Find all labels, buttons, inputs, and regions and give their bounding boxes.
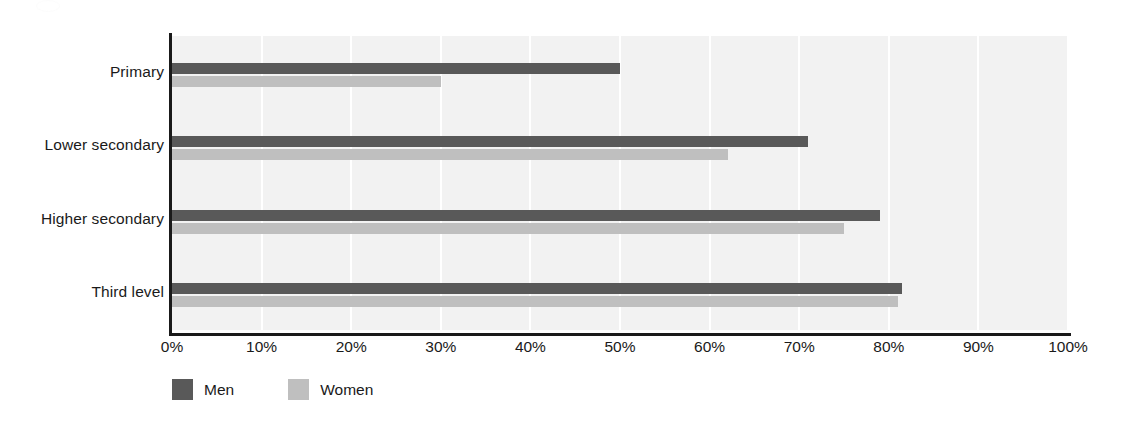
legend-item-women[interactable]: Women	[288, 379, 373, 400]
category-label-third-level: Third level	[0, 283, 164, 301]
bar-men-higher-secondary	[172, 210, 880, 221]
x-tick-label-90%: 90%	[963, 338, 994, 356]
bar-group	[172, 283, 1068, 307]
x-tick-label-20%: 20%	[336, 338, 367, 356]
chart-legend: MenWomen	[172, 379, 373, 400]
x-axis-line	[169, 333, 1071, 336]
x-tick-label-40%: 40%	[515, 338, 546, 356]
legend-swatch-men	[172, 379, 193, 400]
category-label-primary: Primary	[0, 63, 164, 81]
category-label-higher-secondary: Higher secondary	[0, 210, 164, 228]
bar-women-third-level	[172, 296, 898, 307]
legend-label-men: Men	[204, 381, 234, 399]
bar-women-primary	[172, 76, 441, 87]
bar-women-higher-secondary	[172, 223, 844, 234]
x-axis-tick-labels: 0%10%20%30%40%50%60%70%80%90%100%	[0, 338, 1123, 362]
bar-group	[172, 210, 1068, 234]
x-tick-label-100%: 100%	[1048, 338, 1088, 356]
cropped-artifact	[36, 0, 60, 12]
x-tick-label-30%: 30%	[425, 338, 456, 356]
bar-chart: PrimaryLower secondaryHigher secondaryTh…	[0, 0, 1123, 429]
x-tick-label-50%: 50%	[604, 338, 635, 356]
category-label-lower-secondary: Lower secondary	[0, 136, 164, 154]
category-axis-labels: PrimaryLower secondaryHigher secondaryTh…	[0, 36, 164, 330]
plot-area	[172, 36, 1068, 330]
x-tick-label-70%: 70%	[784, 338, 815, 356]
x-tick-label-80%: 80%	[873, 338, 904, 356]
legend-label-women: Women	[320, 381, 373, 399]
bar-men-third-level	[172, 283, 902, 294]
legend-item-men[interactable]: Men	[172, 379, 234, 400]
bar-men-primary	[172, 63, 620, 74]
bar-women-lower-secondary	[172, 149, 728, 160]
y-axis-line	[169, 33, 172, 333]
x-tick-label-60%: 60%	[694, 338, 725, 356]
bar-group	[172, 63, 1068, 87]
bar-men-lower-secondary	[172, 136, 808, 147]
bar-group	[172, 136, 1068, 160]
x-tick-label-10%: 10%	[246, 338, 277, 356]
legend-swatch-women	[288, 379, 309, 400]
x-tick-label-0%: 0%	[161, 338, 183, 356]
